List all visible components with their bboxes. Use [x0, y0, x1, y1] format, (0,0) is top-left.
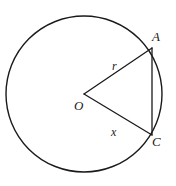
- point-label-o: O: [74, 99, 83, 112]
- geometry-figure: A C O r x: [0, 0, 176, 186]
- point-label-a: A: [152, 30, 160, 43]
- segment-label-r: r: [112, 60, 117, 72]
- geometry-canvas: [0, 0, 176, 186]
- point-label-c: C: [152, 135, 161, 148]
- segment-radius-oc: [84, 94, 152, 135]
- segment-radius-oa: [84, 48, 152, 94]
- segment-label-x: x: [111, 126, 116, 138]
